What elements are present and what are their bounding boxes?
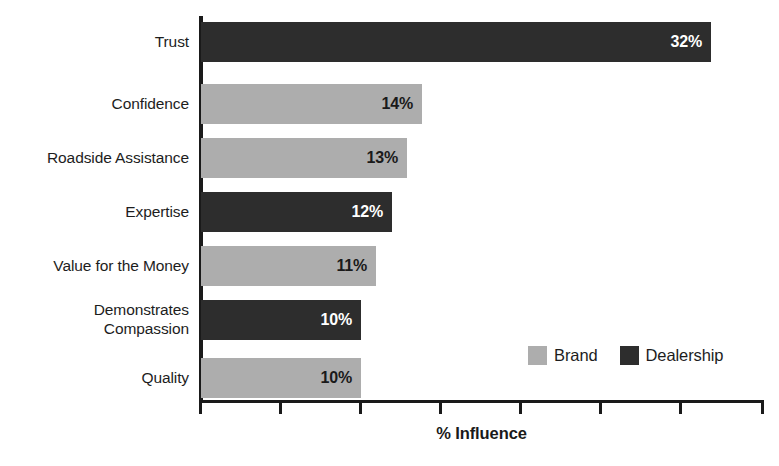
bar-value-label: 10% [321,369,352,387]
category-label-text: Roadside Assistance [47,149,189,166]
category-label-text: Quality [141,369,189,386]
bar-row: Trust 32% [0,22,779,62]
category-label: Confidence [0,94,189,113]
category-label: Quality [0,368,189,387]
bar-roadside-assistance[interactable]: 13% [201,138,407,178]
x-axis-tick [599,403,602,414]
category-label-text: Expertise [125,203,189,220]
category-label-text: Confidence [112,95,189,112]
bar-row: Expertise 12% [0,192,779,232]
category-label: Value for the Money [0,256,189,275]
bar-row: Value for the Money 11% [0,246,779,286]
category-label: Demonstrates Compassion [0,300,189,338]
bar-trust[interactable]: 32% [201,22,711,62]
category-label-text: Trust [155,33,189,50]
category-label-text: Value for the Money [53,257,189,274]
x-axis-tick [519,403,522,414]
category-label: Expertise [0,202,189,221]
chart-legend: Brand Dealership [528,346,723,365]
bar-value-label: 13% [367,149,398,167]
legend-swatch-icon-dealership [620,346,639,365]
legend-item-brand[interactable]: Brand [528,346,598,365]
bar-value-for-the-money[interactable]: 11% [201,246,376,286]
bar-expertise[interactable]: 12% [201,192,392,232]
plot-area: Trust 32% Confidence 14% Roadside Assist… [0,0,779,466]
bar-chart: Trust 32% Confidence 14% Roadside Assist… [0,0,779,466]
x-axis-tick [761,403,764,414]
bar-value-label: 10% [321,311,352,329]
bar-row: Confidence 14% [0,84,779,124]
category-label-text: Demonstrates [94,301,189,318]
x-axis-tick [679,403,682,414]
legend-label-brand: Brand [554,346,598,365]
category-label: Trust [0,32,189,51]
x-axis-tick [439,403,442,414]
legend-item-dealership[interactable]: Dealership [620,346,724,365]
bar-row: Demonstrates Compassion 10% [0,300,779,340]
category-label: Roadside Assistance [0,148,189,167]
category-label-text-line2: Compassion [0,319,189,338]
x-axis-tick [279,403,282,414]
bar-quality[interactable]: 10% [201,358,361,398]
legend-swatch-icon-brand [528,346,547,365]
bar-value-label: 14% [382,95,413,113]
x-axis-title: % Influence [199,424,764,443]
bar-value-label: 11% [336,257,367,275]
bar-demonstrates-compassion[interactable]: 10% [201,300,361,340]
x-axis-tick [359,403,362,414]
bar-value-label: 12% [352,203,383,221]
bar-confidence[interactable]: 14% [201,84,422,124]
x-axis-tick [199,403,202,414]
bar-value-label: 32% [671,33,702,51]
legend-label-dealership: Dealership [646,346,724,365]
bar-row: Roadside Assistance 13% [0,138,779,178]
